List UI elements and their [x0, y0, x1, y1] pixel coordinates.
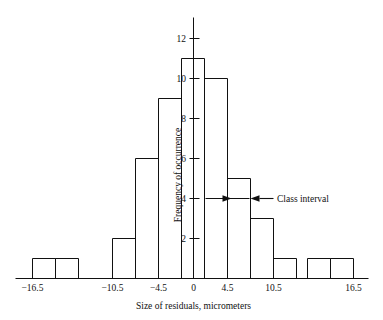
histogram-plot: −16.5 −10.5 −4.5 0 4.5 10.5 16.5 2 4 6 8…	[0, 0, 383, 320]
y-tick-label-5: 12	[177, 34, 187, 44]
y-tick-label-3: 8	[181, 114, 186, 124]
y-tick-label-4: 10	[177, 74, 187, 84]
x-axis-title: Size of residuals, micrometers	[136, 301, 251, 311]
class-interval-label: Class interval	[277, 194, 329, 204]
x-ticks-group	[33, 273, 354, 279]
class-interval-arrowhead-right	[251, 195, 260, 201]
bar-bin-8	[205, 79, 228, 279]
bar-bin-13	[331, 259, 354, 279]
bar-bin-12	[308, 259, 331, 279]
x-tick-label-2: −4.5	[150, 283, 167, 293]
x-tick-label-6: 16.5	[345, 283, 362, 293]
x-tick-label-1: −10.5	[102, 283, 124, 293]
y-tick-label-0: 2	[181, 234, 186, 244]
bar-bin-4	[113, 239, 136, 279]
y-ticks-group	[190, 39, 200, 239]
class-interval-annotation: Class interval	[206, 194, 330, 204]
x-tick-label-0: −16.5	[22, 283, 44, 293]
bar-bin-10	[251, 219, 274, 279]
bar-bin-9	[228, 179, 251, 279]
bar-bin-2	[56, 259, 79, 279]
x-tick-labels-group: −16.5 −10.5 −4.5 0 4.5 10.5 16.5	[22, 283, 363, 293]
x-tick-label-5: 10.5	[265, 283, 282, 293]
x-tick-label-4: 4.5	[222, 283, 234, 293]
x-tick-label-3: 0	[191, 283, 196, 293]
histogram-figure: −16.5 −10.5 −4.5 0 4.5 10.5 16.5 2 4 6 8…	[0, 0, 383, 320]
bar-bin-11	[274, 259, 297, 279]
bar-bin-5	[136, 159, 159, 279]
y-axis-title: Frequency of occurrence	[173, 128, 183, 222]
bar-bin-1	[33, 259, 56, 279]
